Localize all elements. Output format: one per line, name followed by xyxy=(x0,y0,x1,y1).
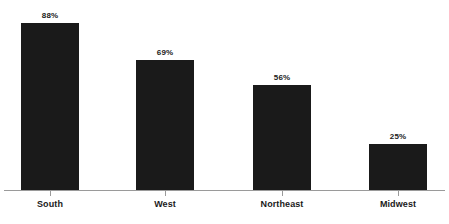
x-axis-label-west: West xyxy=(154,199,176,209)
x-axis-tick xyxy=(282,191,283,196)
bar-south[interactable] xyxy=(21,23,79,191)
bar-value-label: 88% xyxy=(42,11,58,21)
x-axis-tick xyxy=(398,191,399,196)
bar-group-south: 88% xyxy=(21,23,79,191)
bar-chart: 88% 69% 56% 25% South West Northeast Mid… xyxy=(0,0,449,224)
x-axis-label-midwest: Midwest xyxy=(380,199,416,209)
x-axis-label-northeast: Northeast xyxy=(261,199,304,209)
bar-value-label: 56% xyxy=(274,73,290,83)
bar-west[interactable] xyxy=(136,60,194,191)
bar-midwest[interactable] xyxy=(369,144,427,191)
bar-northeast[interactable] xyxy=(253,85,311,191)
x-axis-label-south: South xyxy=(37,199,63,209)
plot-area: 88% 69% 56% 25% xyxy=(0,0,449,191)
bar-group-west: 69% xyxy=(136,60,194,191)
x-axis-line xyxy=(4,190,445,191)
x-axis-tick xyxy=(165,191,166,196)
bar-value-label: 25% xyxy=(390,132,406,142)
bar-value-label: 69% xyxy=(157,48,173,58)
bar-group-midwest: 25% xyxy=(369,144,427,191)
x-axis-tick xyxy=(50,191,51,196)
bar-group-northeast: 56% xyxy=(253,85,311,191)
